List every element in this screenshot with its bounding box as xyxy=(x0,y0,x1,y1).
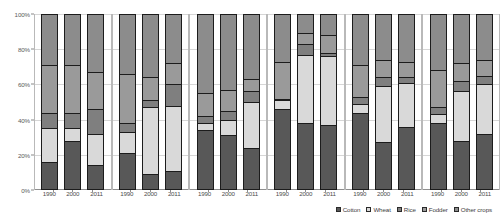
bar-segment-cotton[interactable] xyxy=(142,174,159,190)
bar-segment-wheat[interactable] xyxy=(297,55,314,124)
bar-segment-wheat[interactable] xyxy=(87,134,104,166)
stacked-bar[interactable] xyxy=(430,14,447,190)
bar-segment-cotton[interactable] xyxy=(453,141,470,190)
stacked-bar[interactable] xyxy=(119,14,136,190)
stacked-bar[interactable] xyxy=(297,14,314,190)
bar-segment-fodder[interactable] xyxy=(476,60,493,76)
bar-segment-fodder[interactable] xyxy=(375,60,392,78)
stacked-bar[interactable] xyxy=(476,14,493,190)
bar-segment-cotton[interactable] xyxy=(220,135,237,190)
bar-segment-cotton[interactable] xyxy=(320,125,337,190)
bar-segment-rice[interactable] xyxy=(297,44,314,55)
bar-segment-wheat[interactable] xyxy=(119,132,136,153)
bar-segment-other-crops[interactable] xyxy=(119,14,136,74)
bar-segment-other-crops[interactable] xyxy=(220,14,237,90)
bar-segment-rice[interactable] xyxy=(119,123,136,132)
bar-segment-cotton[interactable] xyxy=(274,109,291,190)
legend-item[interactable]: Fodder xyxy=(422,206,448,213)
stacked-bar[interactable] xyxy=(197,14,214,190)
bar-segment-other-crops[interactable] xyxy=(398,14,415,62)
bar-segment-wheat[interactable] xyxy=(274,100,291,109)
bar-segment-wheat[interactable] xyxy=(398,83,415,127)
bar-segment-other-crops[interactable] xyxy=(197,14,214,93)
bar-segment-rice[interactable] xyxy=(41,113,58,129)
bar-segment-wheat[interactable] xyxy=(375,86,392,142)
stacked-bar[interactable] xyxy=(398,14,415,190)
bar-segment-fodder[interactable] xyxy=(297,33,314,44)
bar-segment-other-crops[interactable] xyxy=(453,14,470,63)
bar-segment-fodder[interactable] xyxy=(142,77,159,100)
bar-segment-rice[interactable] xyxy=(453,81,470,92)
bar-segment-fodder[interactable] xyxy=(430,70,447,107)
bar-segment-cotton[interactable] xyxy=(398,127,415,190)
bar-segment-rice[interactable] xyxy=(87,109,104,134)
bar-segment-fodder[interactable] xyxy=(453,63,470,81)
bar-segment-wheat[interactable] xyxy=(453,91,470,140)
bar-segment-fodder[interactable] xyxy=(119,74,136,123)
bar-segment-fodder[interactable] xyxy=(64,65,81,113)
bar-segment-fodder[interactable] xyxy=(243,79,260,91)
bar-segment-other-crops[interactable] xyxy=(274,14,291,62)
bar-segment-wheat[interactable] xyxy=(320,56,337,125)
bar-segment-rice[interactable] xyxy=(375,77,392,86)
bar-segment-fodder[interactable] xyxy=(352,65,369,97)
bar-segment-other-crops[interactable] xyxy=(243,14,260,79)
bar-segment-cotton[interactable] xyxy=(64,141,81,190)
stacked-bar[interactable] xyxy=(243,14,260,190)
legend-item[interactable]: Rice xyxy=(397,206,416,213)
bar-segment-cotton[interactable] xyxy=(197,130,214,190)
bar-segment-fodder[interactable] xyxy=(87,72,104,109)
bar-segment-fodder[interactable] xyxy=(220,90,237,111)
bar-segment-other-crops[interactable] xyxy=(165,14,182,63)
bar-segment-rice[interactable] xyxy=(142,100,159,107)
bar-segment-cotton[interactable] xyxy=(243,148,260,190)
bar-segment-wheat[interactable] xyxy=(430,114,447,123)
bar-segment-cotton[interactable] xyxy=(41,162,58,190)
bar-segment-rice[interactable] xyxy=(197,116,214,123)
bar-segment-rice[interactable] xyxy=(243,91,260,102)
bar-segment-cotton[interactable] xyxy=(87,165,104,190)
stacked-bar[interactable] xyxy=(220,14,237,190)
bar-segment-cotton[interactable] xyxy=(165,171,182,190)
bar-segment-wheat[interactable] xyxy=(142,107,159,174)
bar-segment-other-crops[interactable] xyxy=(320,14,337,35)
stacked-bar[interactable] xyxy=(64,14,81,190)
bar-segment-wheat[interactable] xyxy=(197,123,214,130)
bar-segment-wheat[interactable] xyxy=(352,104,369,113)
bar-segment-rice[interactable] xyxy=(352,97,369,104)
bar-segment-cotton[interactable] xyxy=(352,113,369,190)
bar-segment-wheat[interactable] xyxy=(243,102,260,148)
bar-segment-wheat[interactable] xyxy=(220,120,237,136)
bar-segment-other-crops[interactable] xyxy=(87,14,104,72)
stacked-bar[interactable] xyxy=(87,14,104,190)
stacked-bar[interactable] xyxy=(352,14,369,190)
bar-segment-other-crops[interactable] xyxy=(476,14,493,60)
bar-segment-fodder[interactable] xyxy=(274,62,291,99)
bar-segment-rice[interactable] xyxy=(64,113,81,129)
stacked-bar[interactable] xyxy=(274,14,291,190)
bar-segment-cotton[interactable] xyxy=(476,134,493,190)
bar-segment-rice[interactable] xyxy=(430,107,447,114)
bar-segment-fodder[interactable] xyxy=(41,65,58,113)
bar-segment-cotton[interactable] xyxy=(430,123,447,190)
legend-item[interactable]: Cotton xyxy=(336,206,361,213)
bar-segment-other-crops[interactable] xyxy=(64,14,81,65)
legend-item[interactable]: Wheat xyxy=(366,206,390,213)
bar-segment-cotton[interactable] xyxy=(297,123,314,190)
bar-segment-other-crops[interactable] xyxy=(375,14,392,60)
bar-segment-other-crops[interactable] xyxy=(297,14,314,33)
stacked-bar[interactable] xyxy=(165,14,182,190)
stacked-bar[interactable] xyxy=(320,14,337,190)
bar-segment-rice[interactable] xyxy=(220,111,237,120)
bar-segment-fodder[interactable] xyxy=(320,35,337,53)
bar-segment-wheat[interactable] xyxy=(165,106,182,171)
bar-segment-fodder[interactable] xyxy=(165,63,182,84)
bar-segment-rice[interactable] xyxy=(476,76,493,85)
bar-segment-fodder[interactable] xyxy=(197,93,214,116)
bar-segment-other-crops[interactable] xyxy=(41,14,58,65)
bar-segment-wheat[interactable] xyxy=(476,84,493,133)
legend-item[interactable]: Other crops xyxy=(454,206,492,213)
stacked-bar[interactable] xyxy=(142,14,159,190)
bar-segment-rice[interactable] xyxy=(165,84,182,105)
bar-segment-other-crops[interactable] xyxy=(352,14,369,65)
